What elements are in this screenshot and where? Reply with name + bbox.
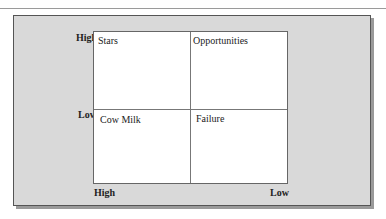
horizontal-divider: [94, 109, 287, 110]
quadrant-matrix: Stars Opportunities Cow Milk Failure: [93, 31, 288, 184]
vertical-divider: [190, 32, 191, 183]
x-axis-low-label: Low: [270, 187, 289, 198]
quadrant-failure: Failure: [196, 113, 224, 124]
quadrant-opportunities: Opportunities: [193, 35, 248, 46]
quadrant-cow-milk: Cow Milk: [100, 114, 141, 125]
top-rule: [0, 8, 386, 9]
quadrant-stars: Stars: [98, 35, 118, 46]
x-axis-high-label: High: [94, 187, 115, 198]
